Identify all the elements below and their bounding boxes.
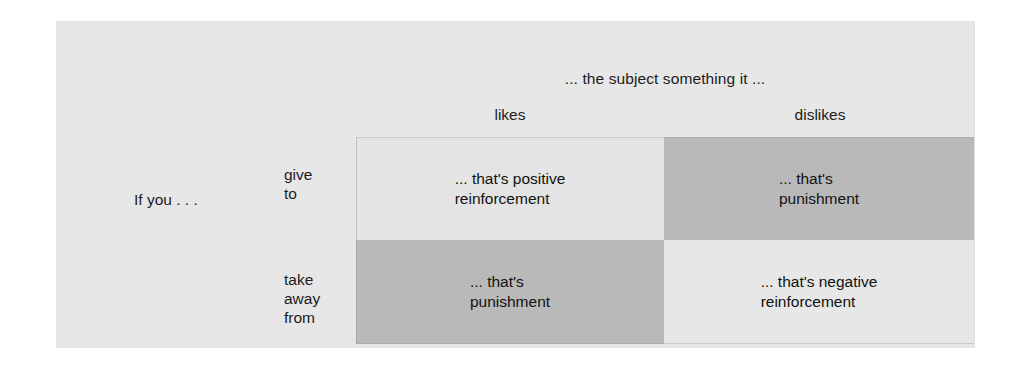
column-group-header: ... the subject something it ... bbox=[356, 70, 974, 88]
matrix-cell-label: ... that's negative reinforcement bbox=[761, 272, 878, 312]
row-header-line: take bbox=[284, 270, 350, 289]
column-header-dislikes: dislikes bbox=[666, 106, 974, 124]
row-header-line: away bbox=[284, 289, 350, 308]
row-header-take-away-from: take away from bbox=[284, 270, 350, 327]
matrix-grid: ... that's positive reinforcement ... th… bbox=[356, 137, 974, 344]
row-header-line: from bbox=[284, 308, 350, 327]
matrix-cell-label: ... that's punishment bbox=[779, 169, 859, 209]
figure-panel: ... the subject something it ... likes d… bbox=[56, 21, 975, 348]
matrix-cell-label: ... that's punishment bbox=[470, 272, 550, 312]
row-header-line: to bbox=[284, 184, 350, 203]
matrix-cell-positive-reinforcement: ... that's positive reinforcement bbox=[356, 137, 664, 240]
row-header-line: give bbox=[284, 165, 350, 184]
matrix-cell-punishment-give-dislikes: ... that's punishment bbox=[664, 137, 974, 240]
matrix-cell-negative-reinforcement: ... that's negative reinforcement bbox=[664, 240, 974, 344]
reinforcement-punishment-matrix-figure: ... the subject something it ... likes d… bbox=[0, 0, 1016, 372]
row-group-header: If you . . . bbox=[134, 191, 284, 209]
matrix-cell-label: ... that's positive reinforcement bbox=[455, 169, 566, 209]
row-header-give-to: give to bbox=[284, 165, 350, 203]
column-header-likes: likes bbox=[356, 106, 664, 124]
matrix-cell-punishment-take-likes: ... that's punishment bbox=[356, 240, 664, 344]
